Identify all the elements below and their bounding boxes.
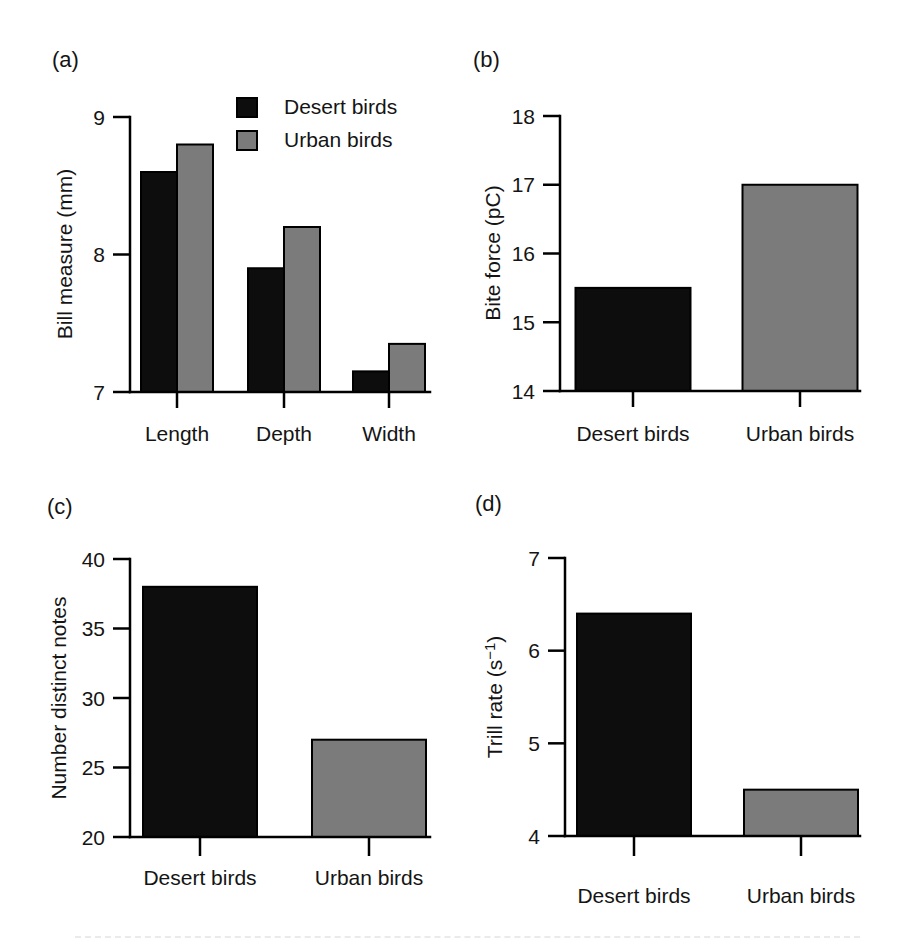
y-axis-title: Bite force (pC) (481, 185, 504, 320)
panel-d: 4567Desert birdsUrban birdsTrill rate (s… (475, 491, 860, 907)
panel-label: (c) (47, 494, 73, 519)
panel-a: 789LengthDepthWidthBill measure (mm)(a)D… (52, 47, 430, 445)
y-tick-label: 25 (82, 756, 105, 779)
y-tick-label: 30 (82, 687, 105, 710)
bar-a-depth-desert (248, 268, 284, 392)
panel-label: (a) (52, 47, 79, 72)
y-tick-label: 16 (512, 242, 535, 265)
y-axis-title: Number distinct notes (47, 596, 70, 799)
legend-swatch-urban (237, 131, 257, 150)
bar-c-urban (312, 740, 426, 837)
bar-chart-grid: 789LengthDepthWidthBill measure (mm)(a)D… (0, 0, 909, 942)
category-label: Urban birds (315, 866, 424, 889)
legend-label: Urban birds (284, 128, 393, 151)
y-tick-label: 18 (512, 105, 535, 128)
y-tick-label: 7 (93, 381, 105, 404)
bar-d-desert (577, 614, 691, 836)
panel-label: (d) (475, 491, 502, 516)
y-tick-label: 17 (512, 173, 535, 196)
legend-label: Desert birds (284, 95, 397, 118)
bar-b-urban (743, 185, 858, 391)
legend-swatch-desert (237, 98, 257, 117)
category-label: Urban birds (746, 422, 855, 445)
y-tick-label: 40 (82, 548, 105, 571)
bar-b-desert (576, 288, 691, 391)
panel-c: 2025303540Desert birdsUrban birdsNumber … (47, 494, 430, 889)
category-label: Length (145, 422, 209, 445)
y-tick-label: 6 (528, 639, 540, 662)
category-label: Desert birds (143, 866, 256, 889)
bar-a-width-urban (389, 344, 425, 392)
y-tick-label: 8 (93, 243, 105, 266)
bar-d-urban (744, 790, 858, 836)
y-tick-label: 5 (528, 732, 540, 755)
category-label: Desert birds (577, 884, 690, 907)
panel-label: (b) (473, 47, 500, 72)
bar-a-length-urban (177, 145, 213, 393)
y-tick-label: 4 (528, 825, 540, 848)
bar-c-desert (143, 587, 257, 837)
scan-artifact (75, 936, 860, 938)
category-label: Depth (256, 422, 312, 445)
category-label: Urban birds (747, 884, 856, 907)
bar-a-depth-urban (284, 227, 320, 392)
y-tick-label: 7 (528, 547, 540, 570)
y-tick-label: 20 (82, 826, 105, 849)
y-axis-title: Trill rate (s−1) (481, 636, 506, 759)
y-tick-label: 14 (512, 380, 536, 403)
figure-canvas: 789LengthDepthWidthBill measure (mm)(a)D… (0, 0, 909, 942)
bar-a-width-desert (353, 371, 389, 392)
category-label: Desert birds (576, 422, 689, 445)
bar-a-length-desert (141, 172, 177, 392)
panel-b: 1415161718Desert birdsUrban birdsBite fo… (473, 47, 860, 445)
y-axis-title: Bill measure (mm) (53, 169, 76, 339)
y-tick-label: 15 (512, 311, 535, 334)
category-label: Width (362, 422, 416, 445)
y-tick-label: 35 (82, 617, 105, 640)
y-tick-label: 9 (93, 106, 105, 129)
